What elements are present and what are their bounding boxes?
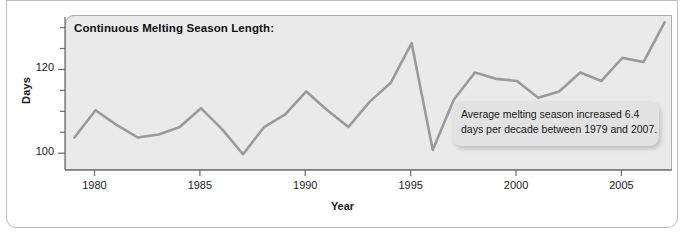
x-axis-title: Year [0, 200, 685, 212]
y-tick-label-100: 100 [24, 145, 54, 157]
x-tick-label-1985: 1985 [175, 179, 225, 191]
y-tick-label-120: 120 [24, 61, 54, 73]
x-tick-label-1990: 1990 [280, 179, 330, 191]
annotation-line-2: days per decade between 1979 and 2007. [461, 122, 650, 137]
annotation-callout: Average melting season increased 6.4 day… [452, 101, 659, 146]
x-tick-label-1995: 1995 [386, 179, 436, 191]
x-tick-label-2000: 2000 [491, 179, 541, 191]
x-tick-label-2005: 2005 [596, 179, 646, 191]
annotation-line-1: Average melting season increased 6.4 [461, 107, 650, 122]
x-tick-label-1980: 1980 [70, 179, 120, 191]
melting-season-chart: Days Continuous Melting Season Length: 1… [0, 0, 685, 232]
